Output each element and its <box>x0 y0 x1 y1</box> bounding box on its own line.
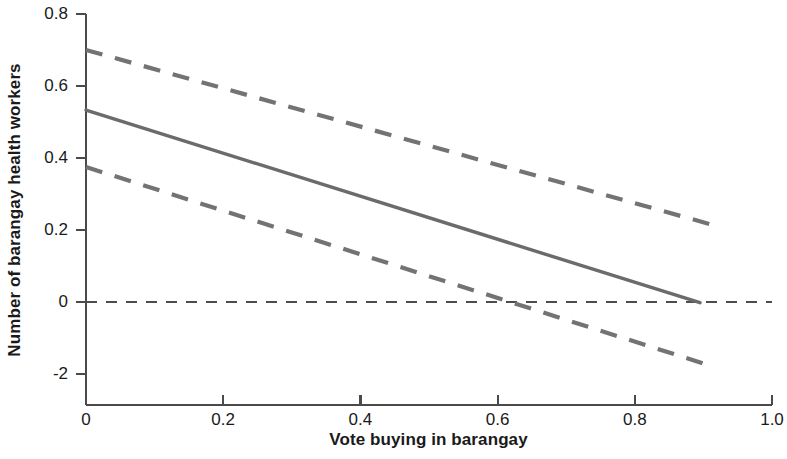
x-axis-tick-label: 0.4 <box>349 410 373 430</box>
x-axis-tick-label: 0.2 <box>211 410 235 430</box>
x-axis-tick-label: 0.6 <box>486 410 510 430</box>
x-axis-tick-label: 1.0 <box>760 410 784 430</box>
axis-lines <box>86 14 772 405</box>
marginal-effect-estimate <box>86 110 700 303</box>
x-axis-tick-marks <box>86 395 772 405</box>
chart-figure: 0.80.60.40.20-2 00.20.40.60.81.0 Vote bu… <box>0 0 787 459</box>
y-axis-title: Number of barangay health workers <box>2 0 28 420</box>
plot-canvas <box>0 0 787 459</box>
x-axis-tick-label: 0.8 <box>623 410 647 430</box>
data-series-group <box>86 50 712 366</box>
x-axis-title: Vote buying in barangay <box>0 430 787 450</box>
y-axis-tick-marks <box>76 14 86 374</box>
x-axis-tick-label: 0 <box>81 410 90 430</box>
